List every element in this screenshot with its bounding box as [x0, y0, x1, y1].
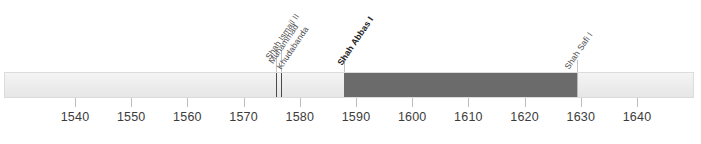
- axis-tick-label-1590: 1590: [342, 110, 371, 124]
- axis-tick-label-1600: 1600: [398, 110, 427, 124]
- timeline-divider-shah-safi-i[interactable]: [577, 73, 578, 97]
- axis-tick-1630: [581, 98, 582, 107]
- axis-tick-label-1570: 1570: [229, 110, 258, 124]
- axis-tick-label-1540: 1540: [61, 110, 90, 124]
- timeline-divider-muhammad-khudabanda[interactable]: [281, 73, 282, 97]
- axis-tick-1640: [637, 98, 638, 107]
- axis-tick-label-1610: 1610: [454, 110, 483, 124]
- axis-tick-1580: [300, 98, 301, 107]
- axis-tick-1550: [131, 98, 132, 107]
- timeline-track: [4, 72, 694, 98]
- event-label-shah-safi-i-text: Shah Safi I: [562, 30, 594, 71]
- axis-tick-label-1640: 1640: [623, 110, 652, 124]
- axis-tick-1600: [412, 98, 413, 107]
- timeline-segment-shah-abbas-i[interactable]: [344, 73, 577, 97]
- event-label-shah-abbas-i: Shah Abbas I: [336, 15, 376, 67]
- axis-tick-1620: [525, 98, 526, 107]
- axis-tick-1540: [75, 98, 76, 107]
- axis-tick-label-1550: 1550: [117, 110, 146, 124]
- axis-tick-1610: [468, 98, 469, 107]
- axis-tick-label-1630: 1630: [566, 110, 595, 124]
- timeline-figure: Shah Ismail II Muhammad Khudabanda Shah …: [0, 0, 701, 144]
- axis-tick-1590: [356, 98, 357, 107]
- axis-tick-label-1580: 1580: [285, 110, 314, 124]
- event-label-shah-abbas-i-text: Shah Abbas I: [335, 15, 375, 68]
- timeline-divider-shah-ismail-ii[interactable]: [276, 73, 277, 97]
- axis-tick-label-1620: 1620: [510, 110, 539, 124]
- axis-tick-label-1560: 1560: [173, 110, 202, 124]
- axis-tick-1570: [244, 98, 245, 107]
- timeline-axis: 1540155015601570158015901600161016201630…: [0, 98, 701, 144]
- axis-tick-1560: [187, 98, 188, 107]
- event-label-shah-safi-i: Shah Safi I: [563, 31, 595, 72]
